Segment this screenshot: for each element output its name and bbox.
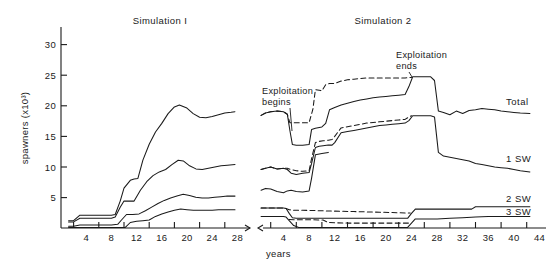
panel-2-axis-break-arrow	[258, 225, 263, 231]
panel-1-x-tick-24: 24	[207, 232, 218, 243]
annotation-exploitation-begins: Exploitation begins	[262, 86, 313, 131]
panel-2-series-3sw-dashed	[289, 219, 410, 223]
panel-2-x-tick-40: 40	[508, 232, 519, 243]
panel-2-series-2sw-dashed	[261, 208, 410, 213]
panel-2-x-tick-12: 12	[329, 232, 340, 243]
exploitation-begins-line-2: begins	[262, 97, 291, 107]
panel-1-title: Simulation I	[133, 15, 187, 26]
panel-2-curves	[261, 77, 530, 228]
y-tick-label-30: 30	[45, 39, 56, 50]
panel-1-series-total	[69, 105, 235, 221]
y-tick-label-5: 5	[50, 192, 56, 203]
panel-1-x-tick-12: 12	[131, 232, 142, 243]
series-label-total: Total	[506, 96, 529, 107]
series-label-3sw: 3 SW	[506, 206, 531, 217]
panel-1-x-tick-16: 16	[156, 232, 167, 243]
exploitation-ends-leader-line	[409, 72, 412, 77]
panel-2-x-tick-32: 32	[457, 232, 468, 243]
panel-1-x-tick-20: 20	[181, 232, 192, 243]
panel-2-x-tick-20: 20	[380, 232, 391, 243]
exploitation-ends-line-1: Exploitation	[396, 50, 447, 60]
panel-2-x-tick-24: 24	[406, 232, 417, 243]
panel-2-x-tick-8: 8	[306, 232, 312, 243]
exploitation-begins-line-1: Exploitation	[262, 86, 313, 96]
panel-1-series-1sw	[69, 160, 235, 222]
series-labels: Total 1 SW 2 SW 3 SW	[506, 96, 531, 217]
series-label-2sw: 2 SW	[506, 193, 531, 204]
x-axis-title: years	[266, 248, 291, 259]
y-tick-label-15: 15	[45, 131, 56, 142]
y-tick-label-20: 20	[45, 100, 56, 111]
panel-1-x-tick-4: 4	[83, 232, 89, 243]
series-label-1sw: 1 SW	[506, 153, 531, 164]
y-axis-title: spawners (x10³)	[19, 92, 30, 165]
panel-1-x-tick-8: 8	[109, 232, 115, 243]
annotation-exploitation-ends: Exploitation ends	[396, 50, 447, 77]
panel-2-x-tick-4: 4	[281, 232, 287, 243]
panel-2-x-tick-16: 16	[355, 232, 366, 243]
chart-svg: 30 25 20 15 10 5 spawners (x10³) 4 8 12	[0, 0, 557, 266]
panel-2-x-tick-28: 28	[432, 232, 443, 243]
panel-2-series-1sw-dashed	[261, 116, 411, 172]
panel-2-x-tick-36: 36	[483, 232, 494, 243]
panel-1-curves	[69, 105, 235, 227]
panel-2-series-1sw-lower-solid	[261, 152, 328, 192]
y-axis-ticks	[61, 45, 67, 198]
y-axis: 30 25 20 15 10 5 spawners (x10³)	[19, 27, 67, 228]
panel-2-x-tick-44: 44	[534, 232, 545, 243]
y-tick-label-10: 10	[45, 162, 56, 173]
panel-1-x-tick-28: 28	[232, 232, 243, 243]
panel-2-title: Simulation 2	[354, 15, 411, 26]
spawners-simulation-figure: 30 25 20 15 10 5 spawners (x10³) 4 8 12	[0, 0, 557, 266]
exploitation-ends-line-2: ends	[396, 61, 417, 71]
y-tick-label-25: 25	[45, 70, 56, 81]
exploitation-begins-leader-line	[290, 108, 292, 131]
